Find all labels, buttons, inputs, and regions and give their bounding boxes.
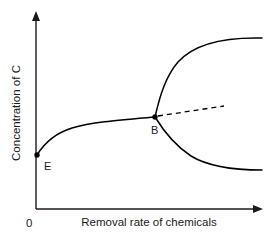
y-axis-label: Concentration of C bbox=[10, 65, 22, 161]
point-e-label: E bbox=[44, 160, 51, 172]
x-axis bbox=[36, 205, 263, 213]
y-axis-arrow-icon bbox=[32, 11, 40, 21]
chart-canvas: E B 0 Removal rate of chemicals Concentr… bbox=[0, 0, 273, 239]
x-axis-label: Removal rate of chemicals bbox=[81, 216, 217, 228]
point-b-marker bbox=[152, 114, 157, 119]
x-axis-arrow-icon bbox=[253, 205, 263, 213]
y-axis bbox=[32, 11, 40, 209]
origin-label: 0 bbox=[26, 217, 32, 229]
upper-stable-branch bbox=[155, 38, 262, 117]
unstable-branch-dashed bbox=[158, 106, 224, 116]
stable-branch-e-to-b bbox=[37, 117, 155, 155]
point-e-marker bbox=[34, 152, 39, 157]
lower-stable-branch bbox=[155, 117, 262, 170]
point-b-label: B bbox=[151, 124, 158, 136]
bifurcation-diagram-figure: E B 0 Removal rate of chemicals Concentr… bbox=[0, 0, 273, 239]
